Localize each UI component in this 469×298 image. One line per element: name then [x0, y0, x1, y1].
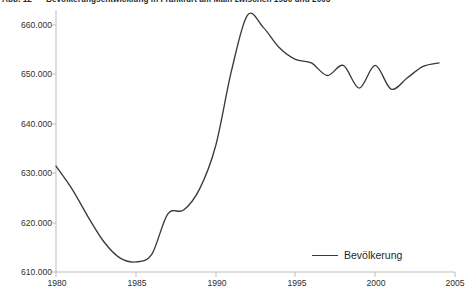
- figure-title-text: Bevölkerungsentwicklung in Frankfurt am …: [46, 0, 331, 4]
- y-tick-marks: [52, 25, 56, 272]
- legend-line-swatch: [312, 255, 338, 256]
- plot-area: [56, 10, 455, 272]
- x-tick-label: 1980: [33, 278, 81, 288]
- chart-legend: Bevölkerung: [312, 249, 402, 261]
- x-tick-label: 2000: [352, 278, 400, 288]
- x-tick-label: 1990: [193, 278, 241, 288]
- x-tick-label: 1995: [273, 278, 321, 288]
- chart-canvas: [56, 10, 455, 272]
- x-axis-labels: 1980 1985 1990 1995 2000 2005: [0, 278, 464, 292]
- y-tick-label: 630.000: [0, 169, 52, 178]
- data-line-bevoelkerung: [56, 13, 439, 262]
- chart-title: Abb. 12Bevölkerungsentwicklung in Frankf…: [0, 0, 464, 6]
- y-axis-labels: 660.000 650.000 640.000 630.000 620.000 …: [0, 0, 52, 298]
- y-tick-label: 610.000: [0, 268, 52, 277]
- x-tick-label: 1985: [113, 278, 161, 288]
- y-tick-label: 640.000: [0, 120, 52, 129]
- y-tick-label: 650.000: [0, 70, 52, 79]
- legend-label-bevoelkerung: Bevölkerung: [344, 249, 402, 261]
- x-tick-label: 2005: [431, 278, 469, 288]
- x-tick-marks: [56, 272, 455, 277]
- y-tick-label: 660.000: [0, 21, 52, 30]
- y-tick-label: 620.000: [0, 219, 52, 228]
